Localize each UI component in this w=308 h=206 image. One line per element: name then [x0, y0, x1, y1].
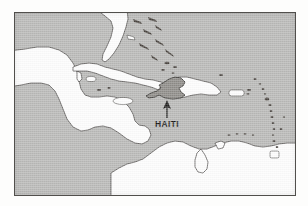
land-bahamas: [127, 17, 177, 74]
land-abc-islands: [227, 133, 254, 136]
land-vieques: [246, 93, 249, 95]
land-puerto-rico: [229, 90, 244, 96]
land-trinidad: [270, 151, 279, 158]
land-virgin-islands: [247, 89, 251, 91]
land-cayman-brac: [107, 87, 110, 89]
caribbean-map: HAITI: [15, 13, 295, 195]
map-frame: HAITI: [14, 12, 296, 196]
land-isla-juventud: [86, 76, 96, 81]
land-turks-caicos: [219, 74, 223, 76]
land-cayman-islands: [97, 89, 101, 91]
land-florida: [101, 13, 128, 62]
locator-map-figure: HAITI: [0, 0, 308, 206]
haiti-callout: HAITI: [155, 100, 179, 129]
land-lesser-antilles: [254, 78, 286, 148]
haiti-label: HAITI: [155, 119, 179, 129]
land-jamaica: [113, 97, 133, 104]
land-central-america: [15, 47, 151, 144]
land-yucatan-inlet: [77, 71, 82, 82]
